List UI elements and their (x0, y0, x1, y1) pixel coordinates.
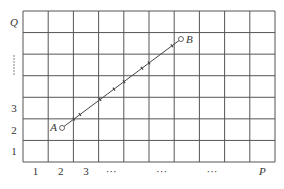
x-label: 3 (83, 165, 89, 177)
x-label: ··· (207, 165, 218, 177)
y-label: 3 (11, 102, 17, 114)
y-label: Q (10, 16, 18, 28)
ellipsis-dot (13, 73, 14, 74)
ellipsis-dot (13, 67, 14, 68)
x-label: ··· (106, 165, 117, 177)
y-label-ellipsis (13, 55, 14, 74)
y-axis-labels: 123Q (10, 16, 18, 157)
grid-diagram: 123Q 123·········P AB (0, 0, 284, 189)
ellipsis-dot (13, 70, 14, 71)
ellipsis-dot (13, 64, 14, 65)
ellipsis-dot (13, 55, 14, 56)
x-label: 1 (33, 165, 39, 177)
x-label: P (258, 165, 266, 177)
point-a-label: A (49, 121, 57, 133)
x-axis-labels: 123·········P (33, 165, 266, 177)
segment-line (64, 41, 179, 127)
ellipsis-dot (13, 61, 14, 62)
segment-ab: AB (49, 33, 193, 133)
ellipsis-dot (13, 58, 14, 59)
grid-lines (23, 11, 275, 162)
point-a-marker (60, 125, 65, 130)
y-label: 1 (11, 145, 17, 157)
point-b-label: B (186, 33, 193, 45)
point-b-marker (179, 37, 184, 42)
x-label: 2 (58, 165, 64, 177)
x-label: ··· (156, 165, 167, 177)
y-label: 2 (11, 124, 17, 136)
